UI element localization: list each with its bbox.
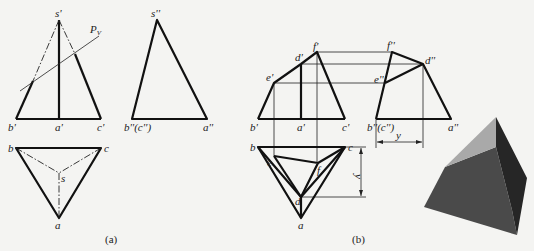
dimension-y-vertical: y: [353, 148, 365, 196]
top-triangle: [16, 148, 101, 218]
label-a-prime-b: a': [297, 121, 306, 133]
label-s-prime: s': [55, 7, 62, 19]
label-e-double-prime: e'': [374, 73, 384, 85]
label-f-double-prime: f'': [387, 39, 395, 51]
side-outline: [376, 52, 451, 119]
orthographic-projection-drawing: s' b' a' c' PV s'' b''(c'') a'' b c s a …: [0, 0, 534, 251]
label-a-double-prime-b: a'': [448, 121, 459, 133]
figure-a: s' b' a' c' PV s'' b''(c'') a'' b c s a …: [8, 7, 214, 246]
caption-a: (a): [105, 233, 118, 246]
figure-b: b' a' c' e' d' f' f'' d'' e'' b''(c'') a…: [250, 39, 459, 246]
figure-a-side-view: s'' b''(c'') a'': [124, 7, 214, 134]
label-e: e: [267, 156, 272, 168]
label-d-prime: d': [295, 51, 304, 63]
label-a-prime: a': [55, 121, 64, 133]
label-a-b: a: [298, 219, 304, 231]
label-c-prime-b: c': [342, 121, 350, 133]
truncated-pyramid-render: [424, 117, 527, 235]
label-dim-y-vertical: y: [353, 173, 365, 179]
label-b: b: [8, 142, 14, 154]
label-a-double-prime: a'': [203, 121, 214, 133]
label-plane-pv: PV: [89, 23, 102, 37]
label-d-double-prime: d'': [425, 54, 436, 66]
label-bc-double-prime-b: b''(c''): [367, 121, 394, 134]
label-c-prime: c': [97, 121, 105, 133]
label-a: a: [55, 219, 61, 231]
label-b-b: b: [250, 141, 256, 153]
caption-b: (b): [352, 233, 365, 246]
edge-sb-lower: [16, 81, 33, 119]
edge-sc-lower: [75, 54, 101, 119]
label-bc-double-prime: b''(c''): [124, 121, 151, 134]
label-c: c: [104, 142, 109, 154]
side-edge-ed: [385, 64, 423, 83]
top-section-ed: [274, 156, 301, 197]
label-s-double-prime: s'': [151, 7, 161, 19]
figure-a-front-view: s' b' a' c' PV: [8, 7, 105, 133]
side-triangle: [132, 20, 207, 119]
label-d: d: [295, 195, 301, 207]
label-e-prime: e': [266, 71, 274, 83]
label-c-b: c: [348, 141, 353, 153]
drawing-canvas: s' b' a' c' PV s'' b''(c'') a'' b c s a …: [0, 0, 534, 251]
label-s: s: [61, 172, 65, 184]
label-b-prime-b: b': [250, 121, 259, 133]
removed-edge-sc: [59, 20, 75, 54]
figure-a-top-view: b c s a: [8, 142, 109, 231]
label-b-prime: b': [8, 121, 17, 133]
label-dim-y-horizontal: y: [395, 129, 401, 141]
removed-edge-sb: [33, 20, 59, 81]
figure-b-front-view: b' a' c' e' d' f': [250, 40, 350, 133]
figure-b-top-view: b c e f d a: [250, 141, 353, 231]
label-f-prime: f': [313, 40, 319, 52]
figure-b-side-view: f'' d'' e'' b''(c'') a'': [367, 39, 459, 134]
